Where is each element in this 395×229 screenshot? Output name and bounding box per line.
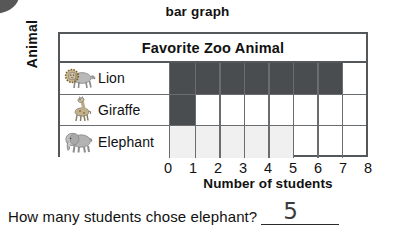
gridlines <box>170 95 366 126</box>
chart-rows: Lion <box>60 63 366 155</box>
x-tick: 7 <box>335 159 351 177</box>
x-tick: 5 <box>285 159 301 177</box>
bar-lion <box>170 63 342 94</box>
page-title: bar graph <box>0 4 395 19</box>
row-plot-elephant <box>170 126 366 158</box>
x-tick: 6 <box>310 159 326 177</box>
x-tick: 1 <box>185 159 201 177</box>
x-tick: 2 <box>210 159 226 177</box>
row-label-giraffe: Giraffe <box>60 95 170 126</box>
chart-title: Favorite Zoo Animal <box>60 34 366 63</box>
answer-blank[interactable]: 5 <box>261 200 339 225</box>
x-tick: 3 <box>235 159 251 177</box>
question-text: How many students chose elephant? <box>8 208 257 225</box>
row-label-text: Lion <box>98 71 125 85</box>
table-row: Giraffe <box>60 95 366 127</box>
lion-icon <box>62 65 96 92</box>
x-tick: 4 <box>260 159 276 177</box>
row-plot-lion <box>170 63 366 94</box>
row-label-text: Elephant <box>98 135 154 149</box>
x-axis-ticks: 0 1 2 3 4 5 6 7 8 <box>168 159 368 177</box>
table-row: Elephant <box>60 126 366 158</box>
x-tick: 0 <box>160 159 176 177</box>
row-plot-giraffe <box>170 95 366 126</box>
row-label-elephant: Elephant <box>60 126 170 158</box>
elephant-icon <box>62 128 96 155</box>
row-label-lion: Lion <box>60 63 170 94</box>
row-label-text: Giraffe <box>98 103 140 117</box>
bar-graph: Favorite Zoo Animal Lion <box>58 32 368 157</box>
x-tick: 8 <box>360 159 376 177</box>
bar-giraffe <box>170 95 195 126</box>
question-row: How many students chose elephant? 5 <box>8 200 339 225</box>
table-row: Lion <box>60 63 366 95</box>
bar-elephant <box>170 126 293 158</box>
giraffe-icon <box>62 96 96 123</box>
answer-value: 5 <box>283 200 298 223</box>
x-axis-label: Number of students <box>168 176 368 191</box>
y-axis-label: Animal <box>24 0 42 96</box>
